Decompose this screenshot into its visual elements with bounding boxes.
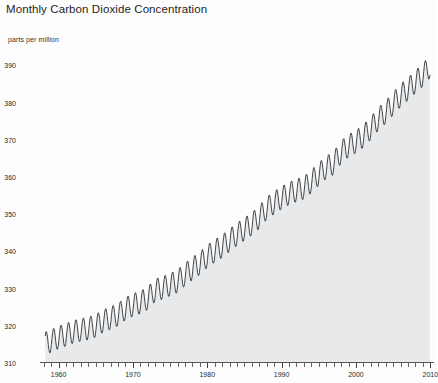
x-tick-minor xyxy=(326,363,327,367)
x-tick-major xyxy=(59,363,60,368)
y-tick-label: 360 xyxy=(0,174,16,181)
x-tick-major xyxy=(282,363,283,368)
x-tick-minor xyxy=(296,363,297,367)
x-tick-minor xyxy=(103,363,104,367)
x-tick-label: 2010 xyxy=(422,371,438,379)
y-tick-label: 370 xyxy=(0,137,16,144)
x-tick-minor xyxy=(163,363,164,367)
x-tick-minor xyxy=(230,363,231,367)
x-tick-label: 1990 xyxy=(274,371,290,379)
x-tick-minor xyxy=(215,363,216,367)
x-tick-minor xyxy=(170,363,171,367)
x-tick-minor xyxy=(118,363,119,367)
x-tick-minor xyxy=(200,363,201,367)
y-tick-label: 390 xyxy=(0,62,16,69)
x-tick-minor xyxy=(289,363,290,367)
x-tick-minor xyxy=(408,363,409,367)
x-tick-minor xyxy=(96,363,97,367)
co2-area-fill xyxy=(45,61,430,363)
x-tick-minor xyxy=(311,363,312,367)
x-tick-minor xyxy=(44,363,45,367)
x-tick-minor xyxy=(274,363,275,367)
x-tick-minor xyxy=(341,363,342,367)
y-tick-label: 380 xyxy=(0,100,16,107)
x-tick-major xyxy=(430,363,431,368)
x-tick-major xyxy=(356,363,357,368)
y-tick-label: 340 xyxy=(0,248,16,255)
x-tick-minor xyxy=(222,363,223,367)
x-tick-minor xyxy=(252,363,253,367)
y-tick-label: 320 xyxy=(0,323,16,330)
x-tick-minor xyxy=(259,363,260,367)
x-tick-minor xyxy=(237,363,238,367)
x-tick-minor xyxy=(192,363,193,367)
y-axis-unit-label: parts per million xyxy=(8,36,59,43)
x-tick-minor xyxy=(244,363,245,367)
x-tick-minor xyxy=(81,363,82,367)
x-tick-major xyxy=(207,363,208,368)
x-tick-minor xyxy=(363,363,364,367)
x-tick-minor xyxy=(185,363,186,367)
x-tick-minor xyxy=(66,363,67,367)
x-tick-major xyxy=(133,363,134,368)
x-tick-label: 1970 xyxy=(125,371,141,379)
x-tick-label: 1980 xyxy=(199,371,215,379)
y-tick-label: 330 xyxy=(0,286,16,293)
x-tick-minor xyxy=(267,363,268,367)
x-tick-label: 1960 xyxy=(51,371,67,379)
x-tick-minor xyxy=(111,363,112,367)
x-tick-minor xyxy=(401,363,402,367)
x-tick-minor xyxy=(386,363,387,367)
x-tick-minor xyxy=(148,363,149,367)
co2-area-chart xyxy=(40,58,434,363)
x-tick-minor xyxy=(178,363,179,367)
x-tick-minor xyxy=(371,363,372,367)
x-tick-minor xyxy=(393,363,394,367)
x-tick-minor xyxy=(378,363,379,367)
x-tick-minor xyxy=(125,363,126,367)
x-tick-minor xyxy=(155,363,156,367)
x-tick-minor xyxy=(349,363,350,367)
x-axis: 196019701980199020002010 xyxy=(40,362,436,383)
x-tick-minor xyxy=(140,363,141,367)
x-tick-minor xyxy=(88,363,89,367)
x-tick-minor xyxy=(319,363,320,367)
x-tick-minor xyxy=(334,363,335,367)
x-tick-minor xyxy=(51,363,52,367)
x-tick-minor xyxy=(415,363,416,367)
x-tick-label: 2000 xyxy=(348,371,364,379)
y-axis: 390380370360350340330320310 xyxy=(0,58,40,368)
y-tick-label: 310 xyxy=(0,360,16,367)
chart-title: Monthly Carbon Dioxide Concentration xyxy=(6,3,207,15)
x-tick-minor xyxy=(423,363,424,367)
x-tick-minor xyxy=(73,363,74,367)
plot-area xyxy=(40,58,434,363)
y-tick-label: 350 xyxy=(0,211,16,218)
x-tick-minor xyxy=(304,363,305,367)
